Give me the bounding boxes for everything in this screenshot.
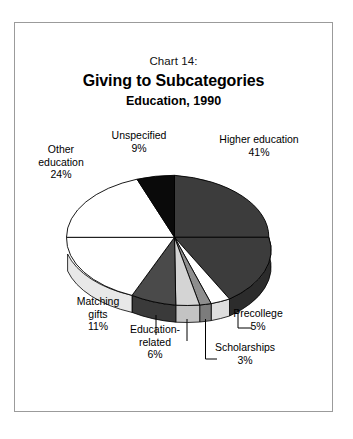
pie-slice-higher-education xyxy=(175,175,269,237)
pie-label-scholarships: Scholarships 3% xyxy=(205,341,285,366)
pie-label-precollege: Precollege 5% xyxy=(220,307,296,332)
pie-label-unspecified: Unspecified 9% xyxy=(103,129,175,154)
pie-chart: Unspecified 9% Higher education 41% Othe… xyxy=(15,23,334,413)
figure-frame: Chart 14: Giving to Subcategories Educat… xyxy=(14,22,333,412)
pie-label-other-education: Other education 24% xyxy=(25,143,97,181)
pie-label-higher-education: Higher education 41% xyxy=(211,133,307,158)
side-wall-education-related xyxy=(176,305,200,322)
pie-label-education-related: Education- related 6% xyxy=(119,323,191,361)
